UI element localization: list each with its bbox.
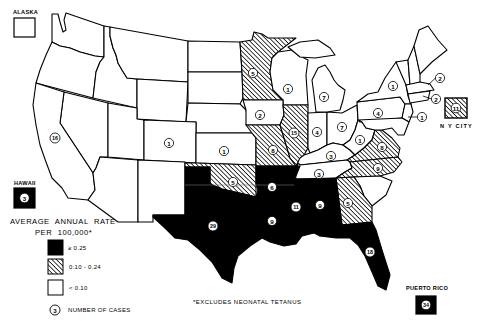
case-count-ok: 5 (231, 179, 235, 186)
case-count-marker: 18 (365, 247, 375, 257)
case-count-marker: 16 (50, 133, 60, 143)
case-count-marker: 1 (388, 81, 397, 90)
ny-city-cases: 11 (453, 105, 460, 112)
case-count-tx: 29 (210, 223, 216, 229)
ny-city-label: N Y CITY (440, 123, 473, 129)
state-sd (188, 72, 243, 104)
legend-label-high: ≥ 0.25 (68, 245, 87, 251)
case-count-marker: 6 (267, 182, 276, 191)
state-fl (320, 222, 390, 290)
case-count-marker: 4 (373, 108, 382, 117)
puerto-rico-inset: PUERTO RICO 34 (406, 285, 448, 314)
hawaii-inset: HAWAII 3 (14, 180, 36, 208)
legend-title-line1: AVERAGE ANNUAL RATE (10, 217, 116, 226)
case-count-marker: 3 (314, 169, 323, 178)
case-count-marker: 8 (377, 142, 386, 151)
alaska-inset: ALASKA (13, 9, 38, 37)
puerto-rico-label: PUERTO RICO (406, 285, 448, 291)
case-count-marker: 5 (343, 198, 352, 207)
case-count-marker: 29 (208, 221, 218, 231)
case-count-il: 15 (291, 130, 297, 136)
case-count-va: 8 (380, 144, 384, 151)
tetanus-rate-map: 1161529512815477318411223959116918 ALASK… (0, 0, 478, 321)
case-count-al: 9 (318, 202, 322, 209)
case-count-marker: 8 (268, 145, 277, 154)
case-count-co: 1 (167, 140, 171, 147)
case-count-marker: 5 (228, 177, 237, 186)
alaska-label: ALASKA (13, 9, 38, 15)
case-count-oh: 7 (340, 124, 344, 131)
case-count-la: 9 (270, 218, 274, 225)
ny-city-inset: 11 N Y CITY (440, 98, 473, 129)
case-count-marker: 1 (219, 146, 228, 155)
case-count-marker: 9 (315, 200, 324, 209)
case-count-marker: 2 (255, 110, 264, 119)
state-ar (256, 166, 300, 190)
case-count-marker: 1 (355, 135, 364, 144)
case-count-marker: 4 (312, 127, 321, 136)
legend-swatch-mid (48, 259, 63, 274)
case-count-ma: 2 (438, 75, 442, 82)
hawaii-cases: 3 (23, 195, 27, 202)
footnote: *EXCLUDES NEONATAL TETANUS (193, 299, 301, 305)
case-count-nc: 9 (376, 165, 380, 172)
case-count-wv: 1 (358, 137, 362, 144)
case-count-marker: 11 (291, 202, 301, 212)
case-count-ks: 1 (222, 148, 226, 155)
legend: AVERAGE ANNUAL RATE PER 100,000* ≥ 0.25 … (10, 217, 131, 315)
case-count-fl: 18 (367, 249, 373, 255)
case-count-marker: 2 (428, 73, 445, 85)
legend-title-line2: PER 100,000* (35, 228, 92, 237)
case-count-mn: 5 (251, 70, 255, 77)
case-count-marker: 9 (373, 163, 382, 172)
case-count-pa: 4 (376, 110, 380, 117)
case-count-ms: 11 (293, 204, 299, 210)
leader-line (428, 78, 436, 85)
case-count-wi: 1 (286, 86, 290, 93)
state-me (414, 26, 447, 74)
alaska-box (14, 18, 35, 37)
case-count-marker: 3 (326, 151, 335, 160)
legend-label-low: < 0.10 (69, 285, 88, 291)
case-count-mi: 7 (322, 94, 326, 101)
case-count-ky: 3 (329, 153, 333, 160)
legend-label-mid: 0.10 - 0.24 (69, 264, 101, 270)
legend-swatch-high (48, 240, 63, 255)
case-count-ct-ri: 2 (434, 96, 438, 103)
legend-case-marker-sample: 3 (53, 307, 57, 314)
case-count-ny: 1 (391, 83, 395, 90)
legend-swatch-low (48, 280, 63, 295)
case-count-tn: 3 (317, 171, 321, 178)
case-count-ar: 6 (270, 184, 274, 191)
case-count-marker: 5 (248, 68, 257, 77)
case-count-marker: 1 (283, 84, 292, 93)
state-nd (188, 41, 242, 72)
case-count-ga: 5 (346, 200, 350, 207)
state-wy (137, 79, 188, 122)
us-states-layer (33, 13, 447, 290)
case-count-ia: 2 (258, 112, 262, 119)
case-count-mo: 8 (271, 147, 275, 154)
case-count-in: 4 (315, 129, 319, 136)
case-count-marker: 15 (289, 128, 299, 138)
hawaii-label: HAWAII (14, 180, 36, 186)
case-count-marker: 1 (164, 138, 173, 147)
case-count-nj: 1 (420, 114, 424, 121)
state-nm (138, 160, 185, 222)
legend-case-marker-label: NUMBER OF CASES (68, 307, 131, 313)
case-count-marker: 7 (319, 92, 328, 101)
puerto-rico-cases: 34 (423, 302, 429, 308)
state-mi (312, 65, 345, 112)
case-count-ca: 16 (52, 135, 58, 141)
case-count-marker: 7 (337, 122, 346, 131)
case-count-marker: 9 (267, 216, 276, 225)
